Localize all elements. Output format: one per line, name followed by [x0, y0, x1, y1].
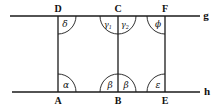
- angle-delta-label: δ: [62, 19, 67, 29]
- angle-gamma2-label: γ2: [121, 20, 129, 30]
- line-h-label: h: [204, 85, 210, 97]
- point-a-label: A: [54, 95, 62, 106]
- angle-gamma1-label: γ1: [104, 20, 112, 30]
- point-c-label: C: [114, 3, 121, 14]
- angle-epsilon-label: ε: [156, 80, 161, 90]
- angle-phi-label: ϕ: [155, 19, 161, 29]
- point-b-label: B: [115, 95, 122, 106]
- point-e-label: E: [162, 95, 169, 106]
- angle-alpha-label: α: [63, 80, 69, 90]
- line-g-label: g: [203, 9, 209, 21]
- point-f-label: F: [162, 3, 168, 14]
- angle-beta-left-label: β: [106, 80, 112, 90]
- point-d-label: D: [54, 3, 61, 14]
- angle-beta-right-label: β: [122, 80, 128, 90]
- geometry-diagram: D C F A B E g h δ γ1 γ2 ϕ α β β ε: [0, 0, 220, 108]
